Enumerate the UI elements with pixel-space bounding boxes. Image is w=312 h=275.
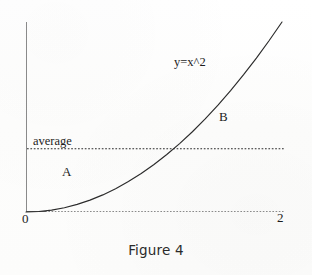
region-a-label: A (62, 165, 71, 178)
region-b-label: B (219, 110, 228, 123)
figure-caption: Figure 4 (0, 242, 312, 258)
average-line-label: average (33, 135, 72, 148)
x-axis-tick-label-max: 2 (277, 211, 284, 224)
x-axis-tick-label-origin: 0 (22, 212, 29, 225)
figure-container: y=x^2 average A B 0 2 Figure 4 (0, 0, 312, 275)
curve-y-equals-x-squared (26, 22, 282, 212)
curve-equation-label: y=x^2 (174, 56, 206, 69)
